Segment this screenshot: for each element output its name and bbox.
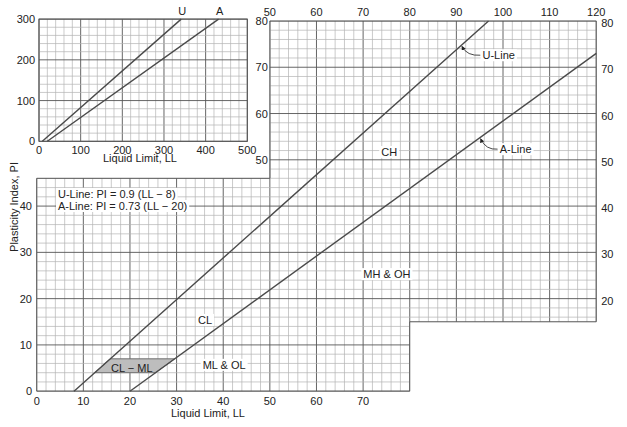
x-tick-label-bottom: 60 [310,395,322,407]
y-tick-label-left-upper: 60 [256,108,268,120]
zone-label-ch-text: CH [381,146,397,158]
y-tick-label-left: 0 [26,385,32,397]
x-tick-label-bottom: 30 [170,395,182,407]
zone-labels: CHMH & OHCLML & OLCL − ML [111,146,412,374]
y-tick-label-right: 70 [601,63,613,75]
zone-label-cl-ml-text: CL − ML [111,362,152,374]
x-tick-label-top: 110 [541,6,559,18]
inset-u-label: U [178,5,186,17]
x-tick-label-bottom: 10 [77,395,89,407]
x-tick-label-bottom: 50 [264,395,276,407]
inset-chart: UA 01002003004005000100200300 Liquid Lim… [17,5,257,164]
line-callouts: U-LineA-Line [462,46,533,155]
y-axis-label: Plasticity Index, PI [8,162,20,252]
x-tick-label-top: 70 [357,6,369,18]
inset-x-axis-label: Liquid Limit, LL [103,152,177,164]
equation-line-2-text: A-Line: PI = 0.73 (LL − 20) [58,200,187,212]
x-tick-label-top: 80 [404,6,416,18]
x-tick-label-bottom: 40 [217,395,229,407]
inset-grid [39,19,247,141]
inset-x-tick-label: 100 [71,144,89,156]
inset-y-tick-label: 300 [17,13,35,25]
inset-y-tick-label: 100 [17,95,35,107]
y-tick-label-left-upper: 50 [256,154,268,166]
y-tick-label-right: 30 [601,248,613,260]
x-axis-label: Liquid Limit, LL [171,407,245,419]
equation-line-1: U-Line: PI = 0.9 (LL − 8) [56,188,178,200]
y-tick-label-left-upper: 70 [256,61,268,73]
x-tick-label-bottom: 70 [357,395,369,407]
equation-line-2: A-Line: PI = 0.73 (LL − 20) [56,200,189,212]
y-tick-label-right: 80 [601,17,613,29]
a-line-callout-label: A-Line [498,143,534,155]
inset-series: UA [42,5,224,141]
y-tick-label-left-upper: 80 [256,15,268,27]
x-tick-label-bottom: 0 [34,395,40,407]
inset-a-line [47,19,218,141]
zone-label-mh-oh: MH & OH [361,268,412,280]
inset-x-tick-label: 500 [238,144,256,156]
y-tick-label-right: 40 [601,202,613,214]
zone-label-ch: CH [379,146,399,158]
y-tick-label-right: 50 [601,156,613,168]
inset-y-tick-label: 0 [29,135,35,147]
x-tick-label-bottom: 20 [124,395,136,407]
y-tick-label-left: 20 [20,293,32,305]
u-line-callout-label: U-Line [480,49,516,61]
inset-y-tick-label: 200 [17,54,35,66]
equations-legend: U-Line: PI = 0.9 (LL − 8)A-Line: PI = 0.… [56,188,189,212]
zone-label-cl-ml: CL − ML [111,362,152,374]
y-tick-label-left: 40 [20,200,32,212]
zone-label-ml-ol-text: ML & OL [203,359,246,371]
x-tick-label-top: 60 [310,6,322,18]
y-tick-label-right: 60 [601,110,613,122]
a-line-callout-label-text: A-Line [500,143,532,155]
y-tick-label-left: 30 [20,246,32,258]
inset-plot-border [39,19,247,141]
u-line-callout-arrow [462,46,480,55]
inset-a-label: A [216,5,224,17]
zone-label-cl-text: CL [198,314,212,326]
equation-line-1-text: U-Line: PI = 0.9 (LL − 8) [58,188,176,200]
inset-x-tick-label: 0 [36,144,42,156]
inset-u-line [42,19,181,141]
u-line-callout-label-text: U-Line [482,49,514,61]
inset-x-tick-label: 400 [196,144,214,156]
zone-label-mh-oh-text: MH & OH [363,268,410,280]
x-tick-label-top: 90 [450,6,462,18]
y-tick-label-right: 20 [601,295,613,307]
x-tick-label-top: 100 [494,6,512,18]
zone-label-ml-ol: ML & OL [201,359,248,371]
plasticity-chart: UA 01002003004005000100200300 Liquid Lim… [0,0,627,427]
zone-label-cl: CL [196,314,214,326]
y-tick-label-left: 10 [20,339,32,351]
a-line-callout-arrow [481,139,498,149]
